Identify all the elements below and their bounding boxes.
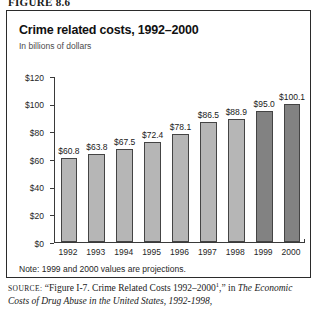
figure-container: FIGURE 8.6 Crime related costs, 1992–200… (0, 0, 318, 309)
bar-value-label: $63.8 (86, 142, 107, 152)
chart-subtitle: In billions of dollars (19, 41, 91, 51)
y-axis-tick: $40 (50, 188, 54, 189)
chart-frame: Crime related costs, 1992–2000 In billio… (6, 10, 311, 278)
bar-1992 (61, 158, 78, 242)
x-axis-label-2000: 2000 (277, 247, 305, 257)
bar-1997 (200, 122, 217, 242)
source-title-part1: The (238, 283, 252, 293)
bar-slot: $67.5 (116, 77, 133, 242)
bar-slot: $86.5 (200, 77, 217, 242)
x-axis-labels: 199219931994199519961997199819992000 (54, 247, 305, 261)
x-axis-label-1998: 1998 (221, 247, 249, 257)
bar-value-label: $78.1 (170, 122, 191, 132)
y-axis-tick-label: $100 (25, 100, 44, 110)
x-axis-line (54, 242, 305, 243)
x-axis-label-1995: 1995 (138, 247, 166, 257)
source-text-pre: “Figure I-7. Crime Related Costs 1992–20… (45, 283, 216, 293)
y-axis-tick: $60 (50, 160, 54, 161)
y-axis-tick: $20 (50, 215, 54, 216)
source-text-post: ,” in (219, 283, 238, 293)
bar-value-label: $60.8 (58, 146, 79, 156)
y-axis-tick: $120 (50, 77, 54, 78)
y-axis-tick-label: $60 (30, 156, 44, 166)
bar-1995 (144, 142, 161, 242)
bar-slot: $72.4 (144, 77, 161, 242)
y-axis-tick: $80 (50, 132, 54, 133)
bar-slot: $95.0 (256, 77, 273, 242)
bar-value-label: $100.1 (279, 92, 305, 102)
source-label: source: (8, 284, 42, 293)
bar-slot: $60.8 (61, 77, 78, 242)
y-axis-tick-label: $20 (30, 211, 44, 221)
bar-1996 (172, 134, 189, 242)
y-axis-tick-label: $80 (30, 128, 44, 138)
bar-series: $60.8$63.8$67.5$72.4$78.1$86.5$88.9$95.0… (55, 77, 305, 242)
x-axis-label-1996: 1996 (166, 247, 194, 257)
y-axis-tick: $0 (50, 243, 54, 244)
x-axis-label-1993: 1993 (82, 247, 110, 257)
bar-slot: $100.1 (284, 77, 301, 242)
bar-value-label: $86.5 (198, 110, 219, 120)
x-axis-label-1992: 1992 (54, 247, 82, 257)
figure-number-label: FIGURE 8.6 (8, 0, 70, 8)
bar-value-label: $95.0 (254, 99, 275, 109)
bar-value-label: $67.5 (114, 137, 135, 147)
x-axis-label-1994: 1994 (110, 247, 138, 257)
bar-value-label: $88.9 (226, 107, 247, 117)
bar-2000 (284, 104, 301, 242)
y-axis-tick-label: $120 (25, 73, 44, 83)
y-axis-tick-label: $40 (30, 183, 44, 193)
bar-1994 (116, 149, 133, 242)
x-axis-label-1997: 1997 (193, 247, 221, 257)
chart-note: Note: 1999 and 2000 values are projectio… (19, 264, 186, 274)
bar-1999 (256, 111, 273, 242)
bar-slot: $78.1 (172, 77, 189, 242)
y-axis-tick-label: $0 (35, 239, 44, 249)
plot-area: $0$20$40$60$80$100$120 $60.8$63.8$67.5$7… (54, 77, 305, 243)
bar-slot: $63.8 (88, 77, 105, 242)
chart-title: Crime related costs, 1992–2000 (19, 23, 199, 37)
bar-1993 (88, 154, 105, 242)
source-citation: source: “Figure I-7. Crime Related Costs… (8, 282, 308, 308)
bar-value-label: $72.4 (142, 130, 163, 140)
x-axis-label-1999: 1999 (249, 247, 277, 257)
y-axis-tick: $100 (50, 105, 54, 106)
bar-slot: $88.9 (228, 77, 245, 242)
bar-1998 (228, 119, 245, 242)
